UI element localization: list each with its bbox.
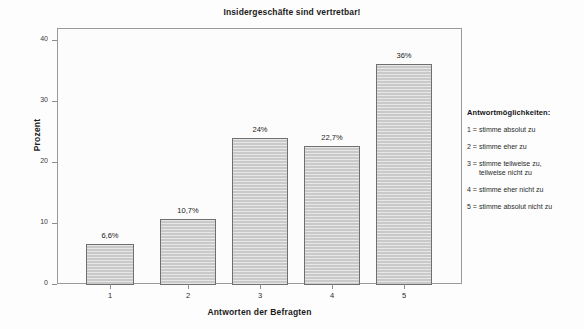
- legend-item-text: stimme absolut zu: [479, 126, 535, 133]
- legend-item-key: 5 =: [467, 203, 477, 210]
- y-tick-label: 30: [40, 96, 48, 103]
- y-tick-label: 20: [40, 157, 48, 164]
- x-tick-label: 2: [174, 291, 202, 300]
- legend-item-key: 2 =: [467, 143, 477, 150]
- legend-item-5: 5 = stimme absolut nicht zu: [467, 203, 582, 212]
- legend-item-3: 3 = stimme teilweise zu, teilweise nicht…: [467, 160, 582, 178]
- x-tick-label: 4: [318, 291, 346, 300]
- bar-category-5: [376, 64, 432, 285]
- legend-item-text: stimme teilweise zu, teilweise nicht zu: [479, 160, 568, 178]
- y-tick-label: 40: [40, 35, 48, 42]
- x-tick-mark: [188, 284, 189, 289]
- bar-value-label: 22,7%: [304, 133, 360, 142]
- y-tick-label: 0: [44, 279, 48, 286]
- legend-item-text: stimme eher nicht zu: [479, 186, 544, 193]
- y-tick-mark: [52, 284, 57, 285]
- x-tick-mark: [110, 284, 111, 289]
- legend-item-key: 3 =: [467, 160, 477, 167]
- legend-item-1: 1 = stimme absolut zu: [467, 126, 582, 135]
- x-tick-label: 1: [96, 291, 124, 300]
- bar-category-1: [86, 244, 134, 285]
- legend-item-text: stimme absolut nicht zu: [479, 203, 568, 212]
- chart-figure: Insidergeschäfte sind vertretbar! Prozen…: [0, 0, 584, 329]
- x-axis-title: Antworten der Befragten: [57, 307, 462, 317]
- y-tick-label: 10: [40, 218, 48, 225]
- x-tick-mark: [260, 284, 261, 289]
- x-tick-label: 5: [390, 291, 418, 300]
- legend-heading: Antwortmöglichkeiten:: [467, 108, 582, 117]
- legend: Antwortmöglichkeiten: 1 = stimme absolut…: [467, 108, 582, 220]
- bar-value-label: 6,6%: [86, 231, 134, 240]
- y-axis-title: Prozent: [32, 75, 42, 195]
- bar-category-4: [304, 146, 360, 285]
- chart-title: Insidergeschäfte sind vertretbar!: [0, 7, 584, 17]
- bar-category-3: [232, 138, 288, 285]
- bar-value-label: 10,7%: [160, 206, 216, 215]
- x-tick-mark: [404, 284, 405, 289]
- x-tick-label: 3: [246, 291, 274, 300]
- legend-item-4: 4 = stimme eher nicht zu: [467, 186, 582, 195]
- legend-item-key: 1 =: [467, 126, 477, 133]
- bar-value-label: 36%: [376, 51, 432, 60]
- x-tick-mark: [332, 284, 333, 289]
- legend-item-2: 2 = stimme eher zu: [467, 143, 582, 152]
- bar-value-label: 24%: [232, 125, 288, 134]
- legend-item-text: stimme eher zu: [479, 143, 527, 150]
- bar-category-2: [160, 219, 216, 285]
- legend-item-key: 4 =: [467, 186, 477, 193]
